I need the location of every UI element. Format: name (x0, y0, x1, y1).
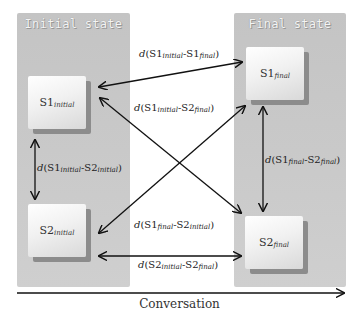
conversation-axis-label: Conversation (0, 297, 359, 311)
label-s1f-s2f: d(S1final-S2final) (265, 154, 340, 166)
label-s1f-s2i: d(S1final-S2initial) (134, 219, 214, 231)
arrow-s1i-s2f (100, 98, 241, 213)
label-s2i-s2f: d(S2initial-S2final) (138, 259, 218, 271)
label-s1i-s1f: d(S1initial-S1final) (139, 48, 219, 60)
arrow-s1i-s1f (99, 62, 242, 87)
label-s1i-s2i: d(S1initial-S2initial) (37, 162, 122, 174)
label-s1i-s2f: d(S1initial-S2final) (134, 102, 214, 114)
